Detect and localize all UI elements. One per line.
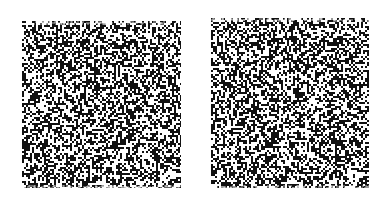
- right-random-dot-panel: [211, 18, 369, 188]
- left-random-dot-panel: [22, 21, 181, 188]
